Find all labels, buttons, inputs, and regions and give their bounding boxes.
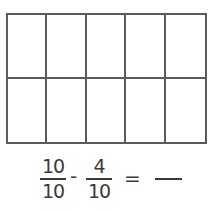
equals-sign: = [124, 168, 141, 188]
fraction-subtrahend: 4 10 [85, 157, 113, 200]
numerator: 4 [93, 157, 104, 175]
subtraction-equation: 10 10 - 4 10 = [0, 0, 223, 211]
answer-blank[interactable] [155, 178, 182, 180]
fraction-minuend: 10 10 [40, 157, 66, 200]
numerator: 10 [42, 157, 64, 175]
minus-sign: - [70, 166, 77, 186]
denominator: 10 [88, 182, 110, 200]
denominator: 10 [42, 182, 64, 200]
